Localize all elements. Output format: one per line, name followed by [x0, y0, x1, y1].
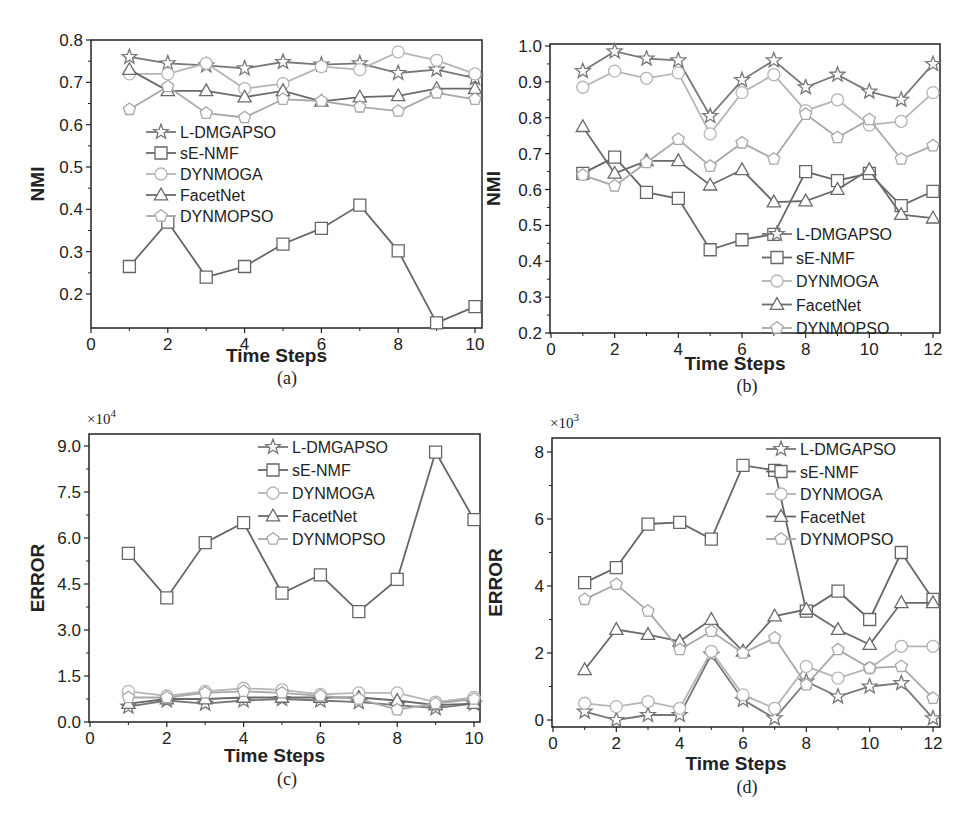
legend-item-l-dmgapso: L-DMGAPSO — [766, 441, 896, 458]
figure-canvas: 02468100.20.30.40.50.60.70.8Time StepsNM… — [0, 0, 972, 833]
facetnet-marker-icon — [610, 623, 623, 635]
x-tick-label: 10 — [860, 340, 879, 359]
x-tick-label: 0 — [85, 729, 94, 748]
legend: L-DMGAPSOsE-NMFDYNMOGAFacetNetDYNMOPSO — [146, 124, 276, 225]
legend-se-nmf-marker-icon — [267, 464, 279, 476]
y-tick-label: 0.6 — [518, 181, 542, 200]
legend-item-dynmopso: DYNMOPSO — [762, 320, 889, 337]
y-tick-label: 0.2 — [59, 285, 83, 304]
x-axis-label: Time Steps — [226, 345, 327, 366]
l-dmgapso-marker-icon — [798, 80, 813, 94]
y-axis: 02468 — [535, 443, 552, 730]
legend-item-facetnet: FacetNet — [258, 508, 357, 525]
legend-item-dynmopso: DYNMOPSO — [258, 531, 385, 548]
dynmoga-marker-icon — [769, 702, 781, 714]
y-axis: 0.20.30.40.50.60.70.80.91.0 — [518, 37, 550, 343]
y-tick-label: 0.7 — [518, 145, 542, 164]
se-nmf-marker-icon — [315, 222, 327, 234]
legend-label: sE-NMF — [800, 464, 859, 481]
dynmoga-marker-icon — [162, 68, 174, 80]
y-axis: 0.01.53.04.56.07.59.0 — [57, 437, 89, 732]
y-tick-label: 0.0 — [57, 713, 81, 732]
l-dmgapso-marker-icon — [609, 712, 624, 726]
y-tick-label: 0.4 — [518, 252, 542, 271]
se-nmf-marker-icon — [579, 577, 591, 589]
y-axis-label: NMI — [483, 171, 504, 206]
l-dmgapso-marker-icon — [894, 675, 909, 689]
dynmopso-marker-icon — [927, 139, 939, 150]
x-tick-label: 8 — [801, 340, 810, 359]
x-axis: 024681012 — [548, 727, 942, 753]
dynmoga-marker-icon — [705, 645, 717, 657]
dynmoga-marker-icon — [315, 61, 327, 73]
dynmopso-marker-icon — [769, 632, 781, 643]
dynmopso-marker-icon — [736, 137, 748, 148]
chart-panel-b: 0246810120.20.30.40.50.60.70.80.91.0Time… — [483, 37, 942, 397]
dynmoga-marker-icon — [832, 672, 844, 684]
l-dmgapso-marker-icon — [391, 65, 406, 79]
legend-item-facetnet: FacetNet — [762, 297, 861, 314]
legend-l-dmgapso-marker-icon — [154, 124, 169, 138]
dynmoga-marker-icon — [737, 689, 749, 701]
x-tick-label: 8 — [392, 729, 401, 748]
dynmoga-marker-icon — [832, 94, 844, 106]
dynmoga-marker-icon — [800, 660, 812, 672]
se-nmf-marker-icon — [199, 537, 211, 549]
se-nmf-marker-icon — [674, 516, 686, 528]
x-tick-label: 4 — [675, 734, 684, 753]
legend-label: FacetNet — [796, 297, 861, 314]
legend-se-nmf-marker-icon — [155, 147, 167, 159]
l-dmgapso-marker-icon — [237, 61, 252, 75]
legend-item-dynmoga: DYNMOGA — [766, 486, 883, 503]
dynmoga-marker-icon — [610, 701, 622, 713]
legend-item-l-dmgapso: L-DMGAPSO — [762, 226, 892, 243]
x-tick-label: 2 — [610, 340, 619, 359]
x-axis-label: Time Steps — [684, 353, 785, 374]
legend-label: DYNMOGA — [796, 273, 879, 290]
l-dmgapso-marker-icon — [276, 54, 291, 68]
se-nmf-marker-icon — [672, 192, 684, 204]
dynmoga-marker-icon — [927, 640, 939, 652]
dynmoga-marker-icon — [392, 46, 404, 58]
se-nmf-marker-icon — [469, 301, 481, 313]
x-tick-label: 0 — [546, 340, 555, 359]
x-tick-label: 10 — [860, 734, 879, 753]
dynmopso-marker-icon — [832, 131, 844, 142]
x-tick-label: 12 — [924, 734, 943, 753]
legend-dynmoga-marker-icon — [775, 488, 787, 500]
series-l-dmgapso — [122, 49, 482, 84]
legend-facetnet-marker-icon — [154, 188, 167, 200]
l-dmgapso-marker-icon — [639, 51, 654, 65]
dynmoga-marker-icon — [736, 87, 748, 99]
y-tick-label: 0.5 — [59, 158, 83, 177]
legend-label: L-DMGAPSO — [796, 226, 892, 243]
dynmopso-marker-icon — [469, 93, 481, 104]
se-nmf-marker-icon — [832, 585, 844, 597]
y-axis-label: ERROR — [27, 543, 48, 612]
chart-panel-d: 02468101202468Time StepsERROR×103(d)L-DM… — [485, 411, 942, 798]
legend-label: L-DMGAPSO — [292, 439, 388, 456]
facetnet-marker-icon — [735, 163, 748, 175]
se-nmf-marker-icon — [238, 517, 250, 529]
series-se-nmf — [123, 199, 481, 329]
dynmoga-marker-icon — [431, 54, 443, 66]
legend-item-se-nmf: sE-NMF — [146, 145, 239, 162]
x-tick-label: 2 — [162, 729, 171, 748]
se-nmf-marker-icon — [353, 606, 365, 618]
legend-label: FacetNet — [180, 187, 245, 204]
facetnet-marker-icon — [672, 154, 685, 166]
dynmoga-marker-icon — [642, 696, 654, 708]
panel-caption: (a) — [277, 368, 297, 389]
legend-item-dynmoga: DYNMOGA — [146, 166, 263, 183]
l-dmgapso-marker-icon — [671, 53, 686, 67]
legend-se-nmf-marker-icon — [775, 466, 787, 478]
series-l-dmgapso — [577, 647, 940, 726]
x-tick-label: 2 — [163, 335, 172, 354]
dynmopso-marker-icon — [392, 105, 404, 116]
legend-facetnet-marker-icon — [266, 509, 279, 521]
x-axis-label: Time Steps — [685, 753, 786, 774]
se-nmf-marker-icon — [391, 573, 403, 585]
x-tick-label: 2 — [612, 734, 621, 753]
se-nmf-marker-icon — [123, 260, 135, 272]
y-tick-label: 7.5 — [57, 483, 81, 502]
